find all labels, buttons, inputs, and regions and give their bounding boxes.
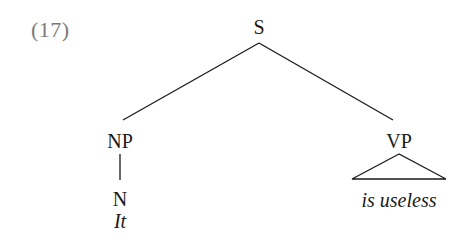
- node-s: S: [253, 17, 264, 37]
- node-n: N: [113, 189, 127, 209]
- vp-triangle: [352, 154, 446, 179]
- leaf-is-useless: is useless: [362, 190, 437, 210]
- node-vp: VP: [386, 131, 412, 151]
- edge-s-to-vp: [259, 43, 393, 120]
- leaf-it: It: [114, 211, 126, 231]
- node-np: NP: [107, 131, 133, 151]
- edge-s-to-np: [123, 43, 259, 120]
